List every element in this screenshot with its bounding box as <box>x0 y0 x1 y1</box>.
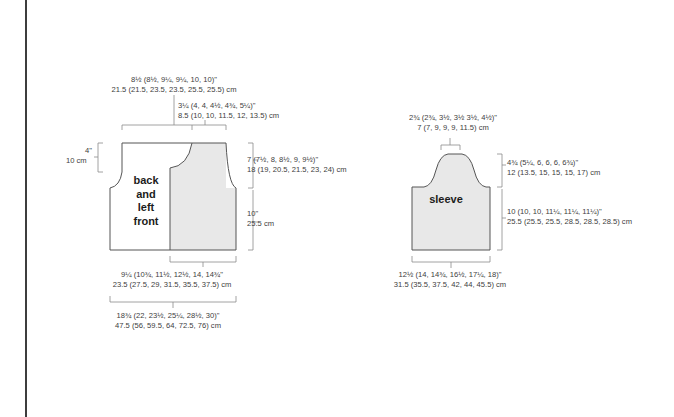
front-width-label: 9¼ (10¾, 11½, 12½, 14, 14¾" 23.5 (27.5, … <box>113 270 232 290</box>
dim-cm: 47.5 (56, 59.5, 64, 72.5, 76) cm <box>115 321 221 331</box>
body-piece <box>110 143 236 250</box>
neck-depth-cm-label: 10 cm <box>66 156 87 166</box>
sleeve-length-label: 10 (10, 10, 11¼, 11¼, 11¼)" 25.5 (25.5, … <box>507 207 632 227</box>
dim-cm: 25.5 (25.5, 25.5, 28.5, 28.5, 28.5) cm <box>507 217 632 227</box>
dim-inches: 12½ (14, 14¾, 16½, 17¼, 18)" <box>394 270 506 280</box>
shoulder-width-label: 8½ (8½, 9¼, 9¼, 10, 10)" 21.5 (21.5, 23.… <box>112 75 237 95</box>
label-line: front <box>133 215 158 229</box>
back-width-label: 18¾ (22, 23½, 25¼, 28½, 30)" 47.5 (56, 5… <box>115 311 221 331</box>
dim-cm: 23.5 (27.5, 29, 31.5, 35.5, 37.5) cm <box>113 280 232 290</box>
dim-cm: 7 (7, 9, 9, 9, 11.5) cm <box>409 123 497 133</box>
dim-cm: 21.5 (21.5, 23.5, 23.5, 25.5, 25.5) cm <box>112 85 237 95</box>
dim-cm: 8.5 (10, 10, 11.5, 12, 13.5) cm <box>178 111 279 121</box>
dim-inches: 3¼ (4, 4, 4½, 4¾, 5¼)" <box>178 101 279 111</box>
dim-inches: 10 (10, 10, 11¼, 11¼, 11¼)" <box>507 207 632 217</box>
front-neck-width-label: 3¼ (4, 4, 4½, 4¾, 5¼)" 8.5 (10, 10, 11.5… <box>178 101 279 121</box>
dim-inches: 10" <box>247 209 274 219</box>
cap-height-label: 4¾ (5¼, 6, 6, 6, 6¾)" 12 (13.5, 15, 15, … <box>507 158 600 178</box>
dim-cm: 18 (19, 20.5, 21.5, 23, 24) cm <box>247 165 347 175</box>
label-line: and <box>133 188 158 202</box>
dim-cm: 25.5 cm <box>247 219 274 229</box>
body-piece-label: back and left front <box>133 174 158 228</box>
dim-inches: 4¾ (5¼, 6, 6, 6, 6¾)" <box>507 158 600 168</box>
dim-cm: 12 (13.5, 15, 15, 15, 17) cm <box>507 168 600 178</box>
dim-cm: 10 cm <box>66 156 87 166</box>
dim-cm: 31.5 (35.5, 37.5, 42, 44, 45.5) cm <box>394 280 506 290</box>
sleeve-width-label: 12½ (14, 14¾, 16½, 17¼, 18)" 31.5 (35.5,… <box>394 270 506 290</box>
side-length-label: 10" 25.5 cm <box>247 209 274 229</box>
sleeve-piece-label: sleeve <box>429 193 463 207</box>
dim-inches: 8½ (8½, 9¼, 9¼, 10, 10)" <box>112 75 237 85</box>
label-line: back <box>133 174 158 188</box>
dim-inches: 4" <box>78 146 92 156</box>
right-front-panel <box>170 143 236 250</box>
label-line: left <box>133 201 158 215</box>
neck-depth-label: 4" <box>78 146 92 156</box>
dim-inches: 9¼ (10¾, 11½, 12½, 14, 14¾" <box>113 270 232 280</box>
dim-inches: 2¾ (2¾, 3½, 3½ 3½, 4½)" <box>409 113 497 123</box>
cap-top-width-label: 2¾ (2¾, 3½, 3½ 3½, 4½)" 7 (7, 9, 9, 9, 1… <box>409 113 497 133</box>
dim-inches: 7 (7½, 8, 8½, 9, 9½)" <box>247 155 347 165</box>
dim-inches: 18¾ (22, 23½, 25¼, 28½, 30)" <box>115 311 221 321</box>
armhole-depth-label: 7 (7½, 8, 8½, 9, 9½)" 18 (19, 20.5, 21.5… <box>247 155 347 175</box>
